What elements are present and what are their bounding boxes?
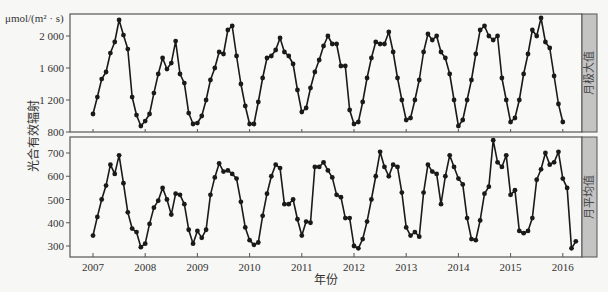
data-point — [265, 56, 270, 61]
data-point — [543, 151, 548, 156]
data-point — [526, 52, 531, 57]
data-point — [491, 138, 496, 143]
data-point — [369, 197, 374, 202]
data-point — [212, 175, 217, 180]
x-tick-label: 2011 — [291, 261, 313, 273]
data-point — [169, 61, 174, 66]
data-point — [434, 34, 439, 39]
unit-label: μmol/(m² · s) — [5, 12, 64, 25]
y-tick-label: 1 600 — [39, 62, 64, 74]
data-point — [456, 124, 461, 129]
data-point — [399, 190, 404, 195]
data-point — [521, 72, 526, 77]
data-point — [443, 174, 448, 179]
data-point — [508, 120, 513, 125]
data-point — [343, 64, 348, 69]
data-point — [312, 165, 317, 170]
data-point — [521, 231, 526, 236]
data-point — [421, 50, 426, 55]
data-point — [130, 226, 135, 231]
data-point — [256, 100, 261, 105]
data-point — [330, 42, 335, 47]
data-point — [247, 122, 252, 127]
data-point — [378, 149, 383, 154]
bottom-y-axis: 300400500600700 — [48, 147, 71, 252]
top-strip-label: 月极大值 — [582, 51, 595, 95]
data-point — [347, 216, 352, 221]
data-point — [430, 169, 435, 174]
data-point — [508, 192, 513, 197]
data-point — [404, 118, 409, 123]
data-point — [369, 56, 374, 61]
data-point — [395, 76, 400, 81]
data-point — [334, 192, 339, 197]
data-point — [365, 219, 370, 224]
data-point — [191, 241, 196, 246]
data-point — [108, 162, 113, 167]
data-point — [278, 36, 283, 41]
data-point — [478, 218, 483, 223]
data-point — [234, 54, 239, 59]
data-point — [95, 95, 100, 100]
data-point — [426, 32, 431, 37]
data-point — [112, 172, 117, 177]
data-point — [534, 34, 539, 39]
data-point — [225, 168, 230, 173]
data-point — [447, 153, 452, 158]
data-point — [138, 124, 143, 129]
data-point — [178, 72, 183, 77]
data-point — [260, 213, 265, 218]
data-point — [573, 239, 578, 244]
data-point — [460, 118, 465, 123]
data-point — [91, 233, 96, 238]
data-point — [317, 58, 322, 63]
data-point — [399, 98, 404, 103]
data-point — [186, 227, 191, 232]
data-point — [478, 28, 483, 33]
data-point — [404, 225, 409, 230]
data-point — [221, 52, 226, 57]
data-point — [500, 165, 505, 170]
data-point — [234, 176, 239, 181]
data-point — [217, 161, 222, 166]
data-point — [530, 216, 535, 221]
data-point — [382, 42, 387, 47]
y-tick-label: 600 — [48, 170, 65, 182]
data-point — [169, 212, 174, 217]
data-point — [434, 172, 439, 177]
data-point — [130, 95, 135, 100]
data-point — [469, 237, 474, 242]
data-point — [239, 199, 244, 204]
data-point — [465, 98, 470, 103]
data-point — [552, 160, 557, 165]
data-point — [513, 116, 518, 121]
data-point — [243, 225, 248, 230]
data-point — [252, 122, 257, 127]
data-point — [156, 72, 161, 77]
data-point — [482, 191, 487, 196]
data-point — [286, 202, 291, 207]
data-point — [339, 64, 344, 69]
data-point — [500, 76, 505, 81]
y-tick-label: 300 — [48, 240, 65, 252]
data-point — [221, 169, 226, 174]
y-tick-label: 700 — [48, 147, 65, 159]
data-point — [560, 176, 565, 181]
data-point — [308, 86, 313, 91]
data-point — [356, 120, 361, 125]
data-point — [352, 244, 357, 249]
data-point — [312, 70, 317, 75]
data-point — [121, 33, 126, 38]
data-point — [217, 50, 222, 55]
data-point — [365, 76, 370, 81]
y-tick-label: 2 000 — [39, 30, 64, 42]
data-point — [99, 77, 104, 82]
y-tick-label: 800 — [48, 126, 65, 138]
data-point — [147, 222, 152, 227]
data-point — [352, 122, 357, 127]
data-point — [199, 235, 204, 240]
data-point — [173, 191, 178, 196]
data-point — [273, 48, 278, 53]
data-point — [469, 78, 474, 83]
data-point — [156, 198, 161, 203]
